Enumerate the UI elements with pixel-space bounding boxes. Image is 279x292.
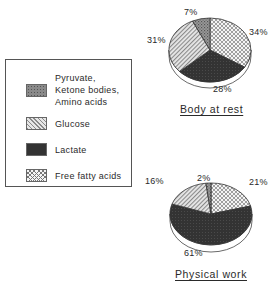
rest-label-pyruvate: 7% [184, 7, 197, 17]
rest-label-lactate: 28% [213, 84, 232, 94]
work-label-ffa: 21% [249, 177, 268, 187]
work-label-glucose: 16% [145, 176, 164, 186]
legend: Pyruvate, Ketone bodies, Amino acids Glu… [5, 59, 132, 187]
pie-rest [169, 18, 251, 88]
work-label-lactate: 61% [184, 248, 203, 258]
rest-label-ffa: 34% [249, 27, 268, 37]
legend-label-lactate: Lactate [55, 144, 87, 156]
swatch-glucose [26, 117, 47, 130]
swatch-lactate [26, 143, 47, 156]
work-title: Physical work [175, 268, 247, 280]
pie-work [170, 183, 252, 252]
work-label-pyruvate: 2% [197, 173, 210, 183]
legend-label-glucose: Glucose [55, 118, 90, 130]
swatch-pyruvate [26, 84, 47, 97]
legend-label-ffa: Free fatty acids [55, 170, 121, 182]
rest-label-glucose: 31% [147, 35, 166, 45]
swatch-ffa [26, 169, 47, 182]
rest-title: Body at rest [180, 103, 243, 115]
legend-label-pyruvate: Pyruvate, Ketone bodies, Amino acids [55, 72, 119, 108]
